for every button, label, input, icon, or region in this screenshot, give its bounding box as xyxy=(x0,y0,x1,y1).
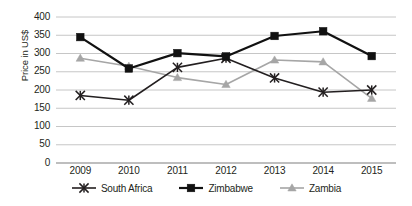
x-tick-label: 2014 xyxy=(300,165,346,176)
x-tick-label: 2013 xyxy=(252,165,298,176)
data-point-marker-square xyxy=(174,49,182,57)
data-point-marker-triangle xyxy=(76,54,84,61)
x-tick-label: 2012 xyxy=(203,165,249,176)
data-point-marker-square xyxy=(188,184,196,192)
data-point-marker-square xyxy=(319,27,327,35)
legend-label: Zambia xyxy=(309,183,341,194)
legend-label: Zimbabwe xyxy=(208,183,253,194)
x-tick-label: 2009 xyxy=(57,165,103,176)
gridlines xyxy=(56,17,396,163)
line-chart: Price in US$ 050100150200250300350400 20… xyxy=(0,0,412,206)
series-south-africa xyxy=(76,54,377,105)
legend-swatch-x-cross xyxy=(71,181,97,195)
data-point-marker-square xyxy=(368,52,376,60)
legend-swatch-square xyxy=(178,181,204,195)
data-point-marker-square xyxy=(76,33,84,41)
data-point-marker-cross xyxy=(270,73,279,82)
legend-item-zambia[interactable]: Zambia xyxy=(279,181,341,195)
data-point-marker-square xyxy=(125,65,133,73)
legend-label: South Africa xyxy=(101,183,153,194)
legend-item-south-africa[interactable]: South Africa xyxy=(71,181,153,195)
x-tick-label: 2010 xyxy=(106,165,152,176)
series-line xyxy=(80,31,371,68)
legend-item-zimbabwe[interactable]: Zimbabwe xyxy=(178,181,253,195)
x-tick-label: 2015 xyxy=(349,165,395,176)
chart-legend: South AfricaZimbabweZambia xyxy=(0,181,412,195)
data-point-marker-square xyxy=(222,53,230,61)
data-point-marker-square xyxy=(271,32,279,40)
legend-swatch-triangle xyxy=(279,181,305,195)
x-tick-label: 2011 xyxy=(154,165,200,176)
